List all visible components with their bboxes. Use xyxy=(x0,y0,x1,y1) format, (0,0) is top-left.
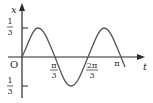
y-axis-label: x xyxy=(11,4,17,15)
svg-text:1: 1 xyxy=(7,76,12,85)
svg-text:π: π xyxy=(114,59,119,68)
y-tick-label-bottom: 1 3 xyxy=(7,76,13,96)
y-axis-arrow-icon xyxy=(19,3,25,11)
svg-text:π: π xyxy=(51,61,56,70)
sine-graph: x t O 1 3 1 3 π 3 2π 3 π xyxy=(0,0,153,103)
x-axis-arrow-icon xyxy=(137,54,145,60)
svg-text:2π: 2π xyxy=(87,61,97,70)
svg-text:3: 3 xyxy=(7,87,12,96)
x-tick-label-pi: π xyxy=(114,59,119,68)
x-tick-label-2pi-over-3: 2π 3 xyxy=(86,61,98,80)
svg-text:3: 3 xyxy=(51,71,56,80)
x-tick-label-pi-over-3: π 3 xyxy=(50,61,58,80)
y-tick-label-top: 1 3 xyxy=(7,17,13,37)
svg-text:3: 3 xyxy=(89,71,94,80)
origin-label: O xyxy=(10,59,18,70)
svg-text:1: 1 xyxy=(7,17,12,26)
x-axis-label: t xyxy=(143,61,148,72)
svg-text:3: 3 xyxy=(7,28,12,37)
